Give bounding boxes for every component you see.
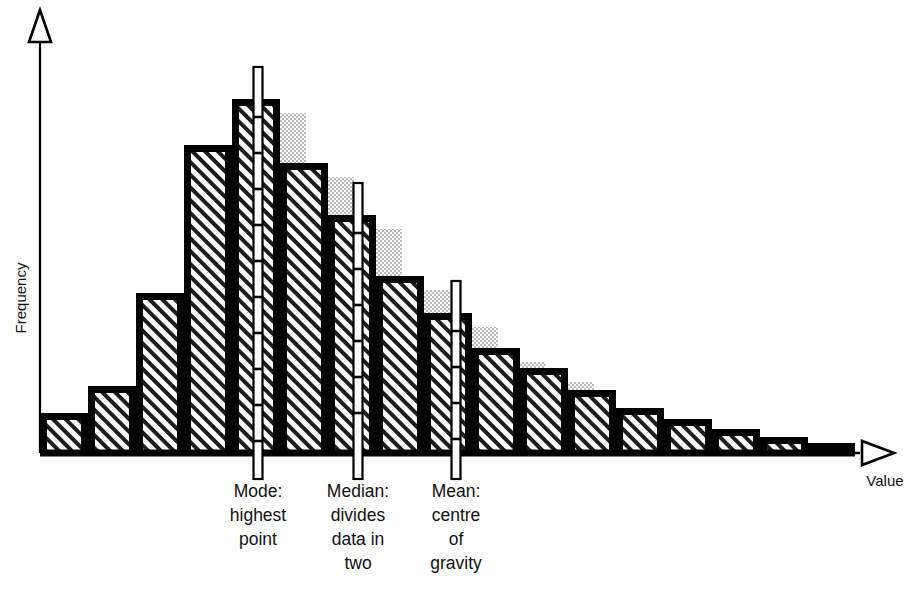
bar-fill [88, 386, 136, 453]
x-axis-arrowhead-icon [862, 441, 894, 465]
histogram-bar [760, 437, 808, 453]
histogram-bar [136, 293, 184, 453]
histogram-bar [184, 145, 232, 453]
marker-rod [354, 183, 363, 479]
marker-rod [452, 281, 461, 479]
bar-fill [184, 145, 232, 453]
x-axis-title: Value [866, 472, 903, 489]
histogram-bar [568, 390, 616, 453]
bar-fill [472, 348, 520, 453]
histogram-bar [376, 276, 424, 453]
histogram-bar [328, 215, 376, 453]
bar-fill [280, 163, 328, 453]
bar-fill [424, 313, 472, 453]
annotation-line: point [239, 529, 277, 549]
bar-fill [568, 390, 616, 453]
bar-fill [328, 215, 376, 453]
y-axis-title: Frequency [12, 262, 29, 333]
histogram-bar [280, 163, 328, 453]
histogram-bar [88, 386, 136, 453]
histogram-bar [424, 313, 472, 453]
histogram-bar [808, 443, 855, 453]
marker-mode [254, 67, 263, 479]
annotation-line: data in [332, 529, 385, 549]
annotation-line: divides [331, 505, 386, 525]
annotation-line: Mode: [234, 481, 283, 501]
histogram-figure: FrequencyValueMode:highestpointMedian:di… [0, 0, 924, 592]
histogram-bar [664, 419, 712, 453]
annotation-line: of [449, 529, 464, 549]
bar-fill [136, 293, 184, 453]
annotation-line: gravity [430, 553, 482, 573]
marker-rod [254, 67, 263, 479]
marker-median [354, 183, 363, 479]
annotation-line: two [344, 553, 371, 573]
histogram-bar [472, 348, 520, 453]
annotation-line: Mean: [432, 481, 481, 501]
annotation-line: centre [432, 505, 481, 525]
figure-canvas: FrequencyValueMode:highestpointMedian:di… [0, 0, 924, 592]
bar-layer [40, 99, 855, 453]
histogram-bar [616, 408, 664, 453]
marker-mean [452, 281, 461, 479]
y-axis-arrowhead-icon [29, 10, 51, 42]
annotation-line: Median: [327, 481, 389, 501]
annotation-line: highest [230, 505, 287, 525]
histogram-bar [40, 413, 88, 453]
bar-fill [520, 368, 568, 453]
histogram-bar [712, 429, 760, 453]
bar-fill [376, 276, 424, 453]
histogram-bar [520, 368, 568, 453]
